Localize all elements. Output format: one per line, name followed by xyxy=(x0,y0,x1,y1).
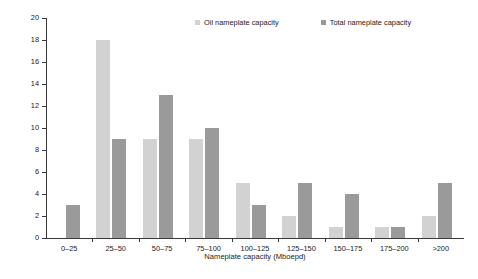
x-axis-tick xyxy=(278,238,279,242)
x-axis-tick xyxy=(185,238,186,242)
y-axis-tick-label: 0 xyxy=(35,233,39,242)
y-axis-tick-label: 2 xyxy=(35,211,39,220)
bar xyxy=(375,227,389,238)
bar xyxy=(345,194,359,238)
y-axis-tick-label: 4 xyxy=(35,189,39,198)
y-axis-tick-label: 8 xyxy=(35,145,39,154)
bar xyxy=(96,40,110,238)
bar-group xyxy=(139,18,185,238)
bar xyxy=(298,183,312,238)
y-axis-tick: 0 xyxy=(42,238,46,239)
y-axis-tick-label: 18 xyxy=(31,35,39,44)
bar xyxy=(112,139,126,238)
y-axis-tick-label: 12 xyxy=(31,101,39,110)
x-axis-tick xyxy=(371,238,372,242)
x-axis-tick xyxy=(139,238,140,242)
bar-chart: Oil nameplate capacityTotal nameplate ca… xyxy=(0,0,478,279)
x-axis-title: Nameplate capacity (Mboepd) xyxy=(46,252,464,261)
y-axis-tick-label: 14 xyxy=(31,79,39,88)
x-axis-tick xyxy=(232,238,233,242)
bar xyxy=(236,183,250,238)
bar xyxy=(143,139,157,238)
plot-area: 02468101214161820 0–2525–5050–7575–10010… xyxy=(46,18,464,238)
x-axis-tick xyxy=(325,238,326,242)
bar-group xyxy=(278,18,324,238)
bar xyxy=(189,139,203,238)
x-axis-line xyxy=(46,238,464,239)
bar-group xyxy=(46,18,92,238)
x-axis-tick xyxy=(92,238,93,242)
bar xyxy=(205,128,219,238)
bar xyxy=(66,205,80,238)
bar-group xyxy=(232,18,278,238)
bar xyxy=(252,205,266,238)
bar-group xyxy=(371,18,417,238)
bar xyxy=(422,216,436,238)
bar xyxy=(329,227,343,238)
bar-group xyxy=(325,18,371,238)
bar xyxy=(391,227,405,238)
y-axis-tick-label: 16 xyxy=(31,57,39,66)
x-axis-tick xyxy=(418,238,419,242)
y-axis-tick-label: 20 xyxy=(31,13,39,22)
y-axis-tick-label: 10 xyxy=(31,123,39,132)
bar-group xyxy=(185,18,231,238)
bar-group xyxy=(92,18,138,238)
bar xyxy=(438,183,452,238)
y-axis-tick-label: 6 xyxy=(35,167,39,176)
bar xyxy=(282,216,296,238)
bar-group xyxy=(418,18,464,238)
bar-series-container xyxy=(46,18,464,238)
bar xyxy=(159,95,173,238)
